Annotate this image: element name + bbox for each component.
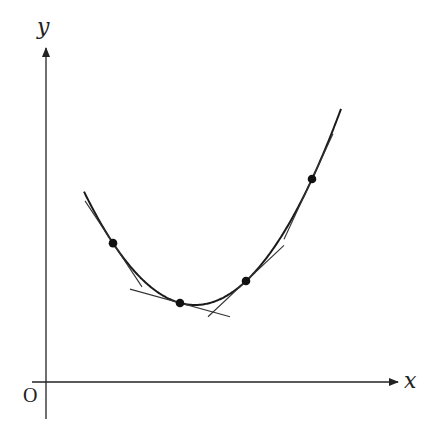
tangent-lines: [85, 134, 333, 317]
curve: [84, 109, 341, 305]
origin-label: O: [23, 384, 37, 406]
x-axis-label: x: [404, 368, 417, 393]
tangent-line-p4: [284, 134, 333, 239]
point-p1: [109, 239, 118, 248]
point-p3: [242, 277, 251, 286]
curve-tangent-diagram: x y O: [0, 0, 443, 445]
point-p2: [176, 299, 185, 308]
marked-points: [109, 175, 317, 307]
point-p4: [308, 175, 317, 184]
y-axis-label: y: [36, 14, 50, 39]
